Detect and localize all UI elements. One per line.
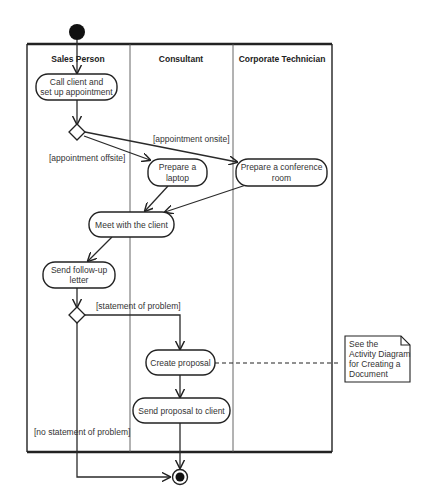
lane-header-consultant: Consultant — [159, 54, 204, 64]
guard-statement-of-problem: [statement of problem] — [96, 301, 181, 311]
action-label: Prepare a conference — [241, 162, 323, 172]
action-label: room — [272, 173, 291, 183]
note-see-activity-diagram: See the Activity Diagram for Creating a … — [345, 336, 410, 382]
action-call-client[interactable]: Call client and set up appointment — [36, 74, 117, 100]
action-label: Create proposal — [150, 358, 211, 368]
action-label: set up appointment — [40, 87, 113, 97]
action-send-follow-up-letter[interactable]: Send follow-up letter — [43, 262, 115, 288]
action-label: Send follow-up — [51, 265, 108, 275]
action-label: Meet with the client — [95, 220, 168, 230]
action-prepare-laptop[interactable]: Prepare a laptop — [148, 159, 207, 186]
action-label: Send proposal to client — [138, 406, 225, 416]
note-text: for Creating a — [349, 359, 401, 369]
activity-final-node[interactable] — [173, 470, 188, 485]
guard-appointment-offsite: [appointment offsite] — [49, 153, 125, 163]
action-label: laptop — [166, 173, 189, 183]
lane-header-corporate-technician: Corporate Technician — [239, 54, 326, 64]
activity-diagram: Sales Person Consultant Corporate Techni… — [0, 0, 430, 503]
action-prepare-conference-room[interactable]: Prepare a conference room — [236, 159, 327, 186]
action-create-proposal[interactable]: Create proposal — [146, 350, 215, 375]
decision-node-appointment[interactable] — [69, 124, 85, 140]
note-text: See the — [349, 339, 379, 349]
guard-no-statement-of-problem: [no statement of problem] — [34, 427, 130, 437]
note-text: Document — [349, 369, 388, 379]
lane-header-sales-person: Sales Person — [51, 54, 104, 64]
note-text: Activity Diagram — [349, 349, 410, 359]
decision-node-statement[interactable] — [69, 307, 85, 323]
initial-node[interactable] — [69, 24, 85, 40]
action-meet-with-client[interactable]: Meet with the client — [89, 212, 174, 237]
action-send-proposal-to-client[interactable]: Send proposal to client — [133, 398, 230, 423]
action-label: letter — [70, 275, 89, 285]
action-label: Prepare a — [159, 162, 197, 172]
guard-appointment-onsite: [appointment onsite] — [153, 134, 230, 144]
action-label: Call client and — [50, 77, 104, 87]
